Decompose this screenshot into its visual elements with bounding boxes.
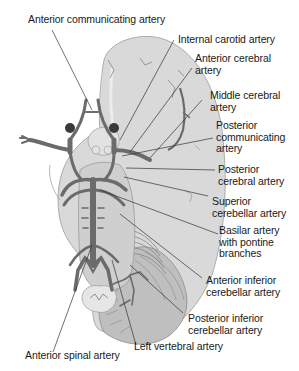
label-basilar-artery: Basilar artery with pontine branches <box>219 225 279 260</box>
label-posterior-communicating-artery: Posterior communicating artery <box>216 120 285 155</box>
label-line: Anterior cerebral <box>195 53 271 65</box>
label-anterior-spinal-artery: Anterior spinal artery <box>25 350 120 362</box>
label-posterior-inferior-cerebellar-artery: Posterior inferior cerebellar artery <box>188 313 263 336</box>
label-line: artery <box>216 143 285 155</box>
internal-carotid-left-section <box>65 123 75 133</box>
label-internal-carotid-artery: Internal carotid artery <box>178 34 275 46</box>
label-superior-cerebellar-artery: Superior cerebellar artery <box>212 196 286 219</box>
brain-artery-diagram: Anterior communicating artery Internal c… <box>0 0 299 371</box>
label-line: cerebellar artery <box>188 325 263 337</box>
label-line: artery <box>210 102 280 114</box>
label-line: artery <box>195 65 271 77</box>
label-anterior-inferior-cerebellar-artery: Anterior inferior cerebellar artery <box>206 275 280 298</box>
internal-carotid-right-section <box>109 123 119 133</box>
label-posterior-cerebral-artery: Posterior cerebral artery <box>218 164 284 187</box>
label-line: cerebellar artery <box>206 287 280 299</box>
label-line: Anterior inferior <box>206 275 280 287</box>
label-line: cerebellar artery <box>212 208 286 220</box>
label-line: Posterior <box>216 120 285 132</box>
label-middle-cerebral-artery: Middle cerebral artery <box>210 90 280 113</box>
label-anterior-cerebral-artery: Anterior cerebral artery <box>195 53 271 76</box>
label-line: branches <box>219 248 279 260</box>
label-left-vertebral-artery: Left vertebral artery <box>134 341 223 353</box>
label-line: Posterior <box>218 164 284 176</box>
label-line: Basilar artery <box>219 225 279 237</box>
label-line: cerebral artery <box>218 176 284 188</box>
label-line: Middle cerebral <box>210 90 280 102</box>
label-line: Posterior inferior <box>188 313 263 325</box>
anterior-cerebral-left <box>70 100 86 140</box>
label-anterior-communicating-artery: Anterior communicating artery <box>28 14 165 26</box>
label-line: Superior <box>212 196 286 208</box>
